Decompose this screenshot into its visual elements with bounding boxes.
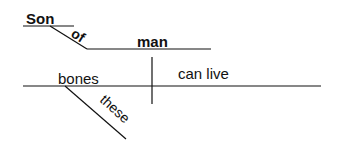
word-these: these bbox=[97, 91, 133, 126]
sentence-diagram: Son of man bones can live these bbox=[0, 0, 337, 150]
word-bones: bones bbox=[58, 70, 99, 87]
word-of: of bbox=[68, 25, 88, 46]
word-man: man bbox=[137, 33, 168, 50]
word-can-live: can live bbox=[178, 65, 229, 82]
word-son: Son bbox=[26, 10, 54, 27]
